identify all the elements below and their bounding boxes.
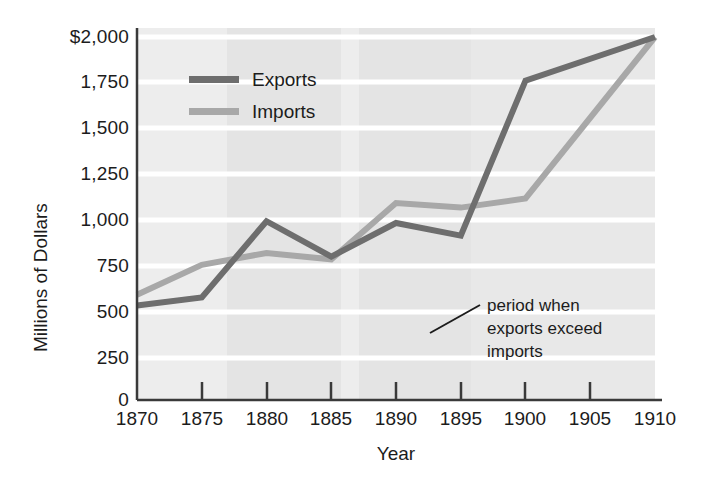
legend-label-imports: Imports — [252, 101, 315, 123]
y-tick-label-1750: 1,750 — [80, 71, 129, 93]
x-tick-label-1900: 1900 — [504, 408, 546, 430]
x-tick-label-1895: 1895 — [440, 408, 482, 430]
y-tick-label-2000: $2,000 — [70, 26, 129, 48]
annotation-line-3: imports — [487, 341, 543, 363]
y-tick-label-1000: 1,000 — [80, 209, 129, 231]
x-tick-label-1870: 1870 — [116, 408, 158, 430]
y-tick-label-250: 250 — [97, 347, 129, 369]
x-tick-label-1875: 1875 — [181, 408, 223, 430]
legend-swatch-imports — [189, 108, 239, 115]
chart-container: 0 250 500 750 1,000 1,250 1,500 1,750 $2… — [0, 0, 701, 492]
x-tick-label-1905: 1905 — [569, 408, 611, 430]
legend-label-exports: Exports — [252, 69, 316, 91]
y-tick-label-750: 750 — [97, 255, 129, 277]
annotation-line-2: exports exceed — [487, 318, 602, 340]
x-axis-title: Year — [377, 443, 415, 465]
x-tick-label-1880: 1880 — [246, 408, 288, 430]
x-tick-label-1910: 1910 — [634, 408, 676, 430]
y-tick-label-1250: 1,250 — [80, 163, 129, 185]
legend-swatch-exports — [189, 76, 239, 83]
x-tick-label-1885: 1885 — [310, 408, 352, 430]
y-axis-tick-labels: 0 250 500 750 1,000 1,250 1,500 1,750 $2… — [0, 0, 129, 492]
x-tick-label-1890: 1890 — [375, 408, 417, 430]
annotation-line-1: period when — [487, 295, 580, 317]
y-tick-label-1500: 1,500 — [80, 117, 129, 139]
y-tick-label-500: 500 — [97, 301, 129, 323]
y-axis-title: Millions of Dollars — [30, 203, 52, 352]
